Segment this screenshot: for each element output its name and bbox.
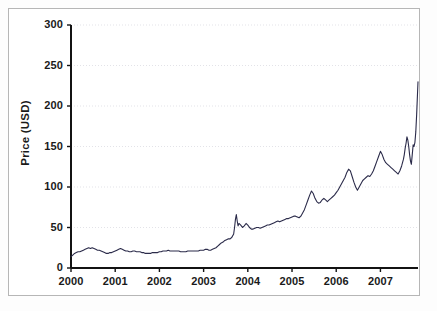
price-series-line <box>71 82 418 257</box>
y-tick-label: 250 <box>29 59 63 71</box>
x-tick-label: 2001 <box>95 275 135 287</box>
y-tick-label: 50 <box>29 221 63 233</box>
x-tick-label: 2000 <box>51 275 91 287</box>
gridlines-group <box>71 25 418 228</box>
chart-plot-frame: Price (USD) 050100150200250300 200020012… <box>8 8 420 296</box>
x-tick-label: 2002 <box>139 275 179 287</box>
x-tick-label: 2006 <box>316 275 356 287</box>
y-tick-label: 0 <box>29 261 63 273</box>
x-tick-label: 2005 <box>272 275 312 287</box>
y-tick-label: 300 <box>29 18 63 30</box>
x-tick-label: 2003 <box>184 275 224 287</box>
x-tick-label: 2007 <box>360 275 400 287</box>
y-tick-label: 100 <box>29 180 63 192</box>
x-tick-label: 2004 <box>228 275 268 287</box>
price-line-chart <box>9 9 419 295</box>
y-tick-label: 150 <box>29 140 63 152</box>
y-tick-label: 200 <box>29 99 63 111</box>
figure-container: Price (USD) 050100150200250300 200020012… <box>0 0 437 311</box>
